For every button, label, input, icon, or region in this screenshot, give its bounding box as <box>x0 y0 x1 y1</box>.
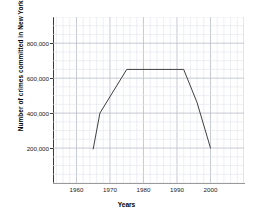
x-tick-label-1960: 1960 <box>59 186 93 193</box>
y-tick-label-400000: 400,000 <box>3 110 49 117</box>
grid-lines <box>53 17 244 183</box>
data-line-crimes <box>53 17 244 183</box>
x-axis-title: Years <box>0 201 253 208</box>
x-axis-line <box>53 183 245 184</box>
chart-figure: Number of crimes committed in New York C… <box>0 0 253 219</box>
y-tick-label-800000: 800,000 <box>3 40 49 47</box>
y-tick-label-600000: 600,000 <box>3 75 49 82</box>
x-tick-label-1990: 1990 <box>160 186 194 193</box>
plot-area <box>53 17 244 183</box>
x-tick-label-2000: 2000 <box>193 186 227 193</box>
y-tick-label-200000: 200,000 <box>3 145 49 152</box>
y-axis-title: Number of crimes committed in New York C… <box>17 0 24 139</box>
x-tick-label-1970: 1970 <box>93 186 127 193</box>
x-tick-label-1980: 1980 <box>126 186 160 193</box>
